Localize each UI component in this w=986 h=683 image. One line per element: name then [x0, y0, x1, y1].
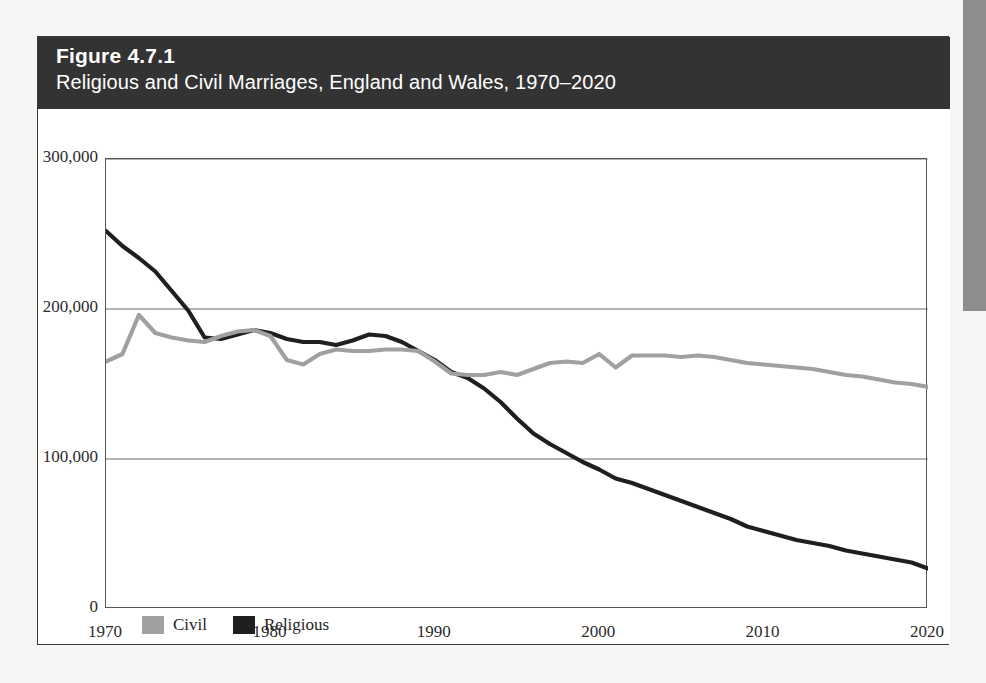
legend-swatch-civil	[142, 616, 164, 634]
legend-label: Religious	[264, 615, 329, 635]
chart-plot-svg	[106, 159, 928, 609]
x-axis-tick-label: 2010	[746, 622, 780, 642]
legend-swatch-religious	[233, 616, 255, 634]
x-axis-tick-label: 2020	[910, 622, 944, 642]
x-axis-tick-label: 1990	[417, 622, 451, 642]
chart-legend: CivilReligious	[142, 615, 329, 635]
figure-container: Figure 4.7.1 Religious and Civil Marriag…	[37, 36, 949, 645]
x-axis-tick-label: 1970	[88, 622, 122, 642]
x-axis-tick-label: 2000	[581, 622, 615, 642]
plot-frame	[105, 158, 927, 608]
series-line-civil	[106, 315, 928, 387]
legend-label: Civil	[173, 615, 207, 635]
page-margin-bar	[963, 0, 986, 311]
legend-item-religious: Religious	[233, 615, 329, 635]
figure-header: Figure 4.7.1 Religious and Civil Marriag…	[38, 37, 950, 109]
figure-number: Figure 4.7.1	[56, 43, 950, 69]
series-line-religious	[106, 231, 928, 569]
legend-item-civil: Civil	[142, 615, 207, 635]
figure-subtitle: Religious and Civil Marriages, England a…	[56, 69, 950, 96]
chart-panel: 0100,000200,000300,000 19701980199020002…	[38, 109, 950, 644]
